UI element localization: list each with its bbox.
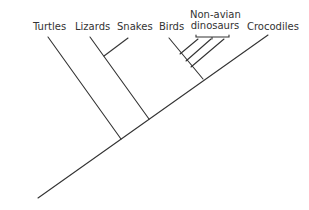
branch-dino-3 bbox=[191, 39, 224, 67]
cladogram-lines bbox=[0, 0, 309, 210]
branch-snakes bbox=[104, 38, 128, 56]
branch-main-crocodiles bbox=[38, 35, 268, 198]
branch-turtles bbox=[48, 37, 121, 139]
branch-birds bbox=[169, 38, 203, 79]
branch-dino-1 bbox=[180, 39, 198, 54]
branch-lizards bbox=[90, 37, 149, 119]
bracket-dinosaurs bbox=[196, 35, 229, 39]
branch-dino-2 bbox=[186, 39, 211, 61]
